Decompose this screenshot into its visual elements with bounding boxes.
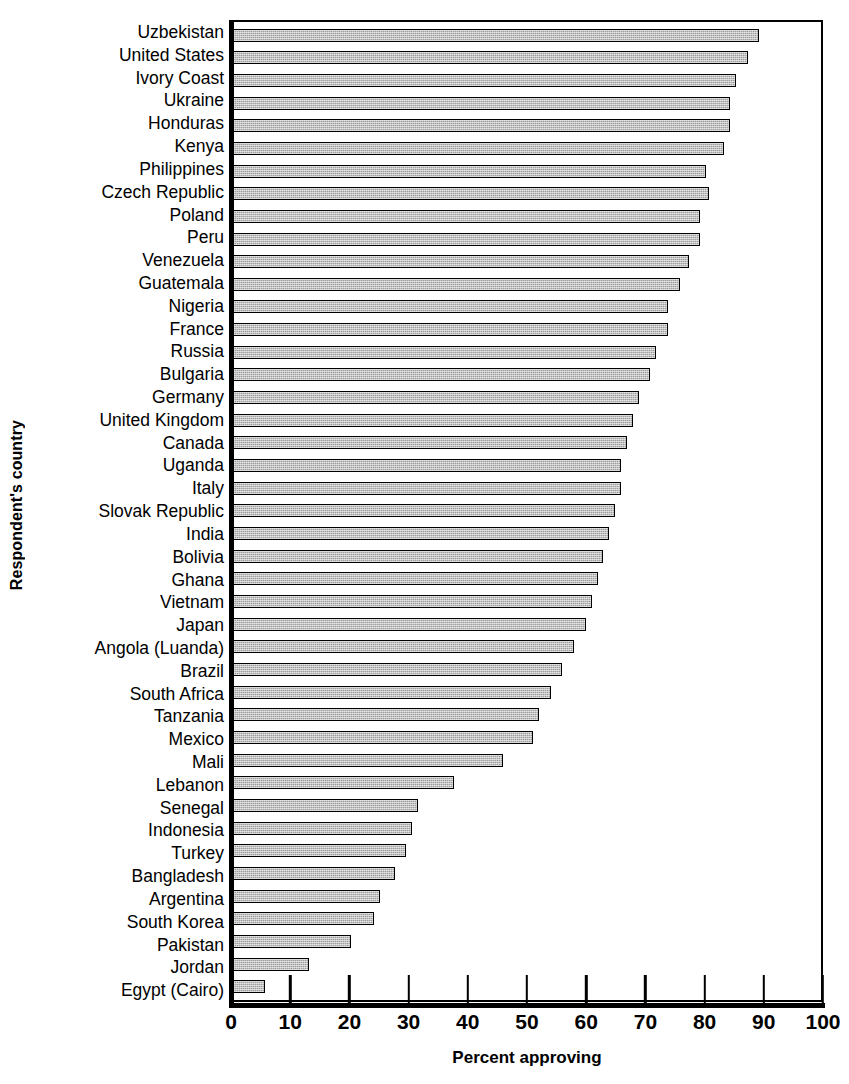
x-axis-tick xyxy=(585,975,587,1003)
category-label: Mali xyxy=(34,751,231,773)
category-label: Uzbekistan xyxy=(34,21,231,43)
bar-row xyxy=(233,704,821,726)
bar-row xyxy=(233,749,821,771)
category-label: France xyxy=(34,318,231,340)
bar xyxy=(233,686,551,699)
bar xyxy=(233,278,680,291)
category-label: Jordan xyxy=(34,956,231,978)
bar xyxy=(233,731,533,744)
bar-row xyxy=(233,862,821,884)
bar-row xyxy=(233,522,821,544)
y-axis-label-container: Respondent's country xyxy=(0,0,34,1010)
category-label-column: UzbekistanUnited StatesIvory CoastUkrain… xyxy=(34,20,231,1002)
x-axis-tick xyxy=(703,975,705,1003)
bar xyxy=(233,708,539,721)
category-label: Brazil xyxy=(34,660,231,682)
bar-row xyxy=(233,364,821,386)
bar xyxy=(233,890,380,903)
x-axis-tick xyxy=(407,975,409,1003)
category-label: Ivory Coast xyxy=(34,67,231,89)
bar-row xyxy=(233,681,821,703)
x-axis-tick-label: 10 xyxy=(279,1010,302,1034)
x-axis-tick-label: 40 xyxy=(456,1010,479,1034)
bar xyxy=(233,754,503,767)
x-axis-tick xyxy=(467,975,469,1003)
bar-row xyxy=(233,636,821,658)
bar xyxy=(233,436,627,449)
category-label: South Korea xyxy=(34,911,231,933)
bar-row xyxy=(233,930,821,952)
category-label: Czech Republic xyxy=(34,181,231,203)
bar-row xyxy=(233,183,821,205)
category-label: Egypt (Cairo) xyxy=(34,979,231,1001)
category-label: Uganda xyxy=(34,454,231,476)
bar xyxy=(233,572,598,585)
category-label: Russia xyxy=(34,340,231,362)
bar-row xyxy=(233,409,821,431)
category-label: Poland xyxy=(34,204,231,226)
bar-row xyxy=(233,840,821,862)
x-axis-tick-label: 0 xyxy=(225,1010,237,1034)
x-axis-tick-label: 70 xyxy=(634,1010,657,1034)
bar xyxy=(233,414,633,427)
category-label: Germany xyxy=(34,386,231,408)
bar-row xyxy=(233,205,821,227)
bar xyxy=(233,300,668,313)
x-axis-tick-labels: 0102030405060708090100 xyxy=(231,1010,823,1038)
x-axis-ticks xyxy=(231,975,823,1003)
bar xyxy=(233,958,309,971)
bar-row xyxy=(233,69,821,91)
x-axis-tick-label: 60 xyxy=(575,1010,598,1034)
category-label: United Kingdom xyxy=(34,409,231,431)
bar-row xyxy=(233,953,821,975)
bar xyxy=(233,550,603,563)
category-label: Senegal xyxy=(34,797,231,819)
bar xyxy=(233,323,668,336)
category-label: Argentina xyxy=(34,888,231,910)
category-label: Pakistan xyxy=(34,934,231,956)
bar-row xyxy=(233,251,821,273)
category-label: Slovak Republic xyxy=(34,500,231,522)
bar xyxy=(233,799,418,812)
bar xyxy=(233,844,406,857)
x-axis-tick xyxy=(644,975,646,1003)
x-axis-tick-label: 80 xyxy=(693,1010,716,1034)
bar xyxy=(233,459,621,472)
category-label: Bulgaria xyxy=(34,363,231,385)
bar xyxy=(233,663,562,676)
bar-row xyxy=(233,726,821,748)
category-label: Ukraine xyxy=(34,89,231,111)
bar xyxy=(233,346,656,359)
category-label: Japan xyxy=(34,614,231,636)
bar xyxy=(233,368,650,381)
category-label: Nigeria xyxy=(34,295,231,317)
bar-row xyxy=(233,432,821,454)
bar-row xyxy=(233,92,821,114)
category-label: Bolivia xyxy=(34,546,231,568)
bar xyxy=(233,391,639,404)
bar-chart: Respondent's country UzbekistanUnited St… xyxy=(0,0,849,1084)
bar-row xyxy=(233,568,821,590)
bar-row xyxy=(233,817,821,839)
bar-row xyxy=(233,47,821,69)
category-label: Tanzania xyxy=(34,705,231,727)
bar-row xyxy=(233,885,821,907)
y-axis-line xyxy=(229,20,234,1008)
bar xyxy=(233,165,706,178)
bar xyxy=(233,255,689,268)
bar-row xyxy=(233,545,821,567)
category-label: Indonesia xyxy=(34,819,231,841)
y-axis-label: Respondent's country xyxy=(8,420,26,590)
plot-area xyxy=(231,20,823,1002)
category-label: Vietnam xyxy=(34,591,231,613)
bar-row xyxy=(233,137,821,159)
x-axis-tick xyxy=(348,975,350,1003)
bar-row xyxy=(233,590,821,612)
bar-row xyxy=(233,477,821,499)
x-axis-tick xyxy=(230,975,232,1003)
bar xyxy=(233,595,592,608)
x-axis-tick-label: 100 xyxy=(805,1010,840,1034)
x-axis-tick-label: 90 xyxy=(752,1010,775,1034)
bar xyxy=(233,527,609,540)
bar xyxy=(233,29,759,42)
